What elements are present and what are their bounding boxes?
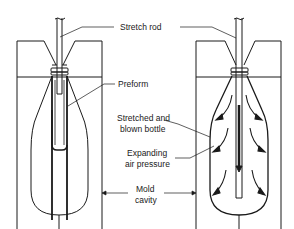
left-preform: [31, 68, 88, 220]
left-mold: [17, 41, 102, 229]
label-stretched-line2: blown bottle: [120, 124, 166, 134]
label-preform: Preform: [118, 79, 148, 89]
right-stretch-rod: [234, 18, 244, 198]
label-mold-line1: Mold: [136, 184, 155, 194]
label-stretched-line1: Stretched and: [117, 113, 170, 123]
label-expanding-line2: air pressure: [125, 159, 170, 169]
label-mold-line2: cavity: [135, 195, 157, 205]
label-stretch-rod: Stretch rod: [120, 22, 162, 32]
label-expanding-line1: Expanding: [127, 148, 167, 158]
left-stretch-rod: [52, 18, 67, 94]
stretch-blow-molding-diagram: Stretch rod Preform Stretched and blown …: [0, 0, 294, 229]
